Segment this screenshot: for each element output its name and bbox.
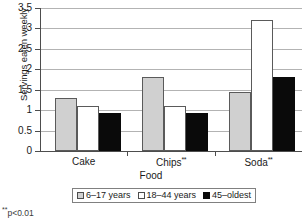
y-axis-tick xyxy=(35,69,40,70)
bar xyxy=(77,106,99,151)
bar xyxy=(99,113,121,151)
significance-marker: ** xyxy=(182,156,186,163)
legend-label: 6–17 years xyxy=(86,191,131,200)
y-axis-tick-label: 0 xyxy=(0,146,32,156)
y-axis-tick-label: 3.5 xyxy=(0,3,32,13)
y-axis-tick-label: 2.5 xyxy=(0,44,32,54)
legend-label: 18–44 years xyxy=(147,191,197,200)
legend-item: 6–17 years xyxy=(77,191,131,200)
bar xyxy=(229,92,251,151)
y-axis-tick xyxy=(35,131,40,132)
legend-label: 45–oldest xyxy=(212,191,251,200)
bar xyxy=(186,113,208,151)
chart-legend: 6–17 years18–44 years45–oldest xyxy=(72,188,256,203)
category-label: Chips** xyxy=(127,156,214,168)
bar xyxy=(251,20,273,151)
legend-swatch-icon xyxy=(77,192,84,199)
bar xyxy=(273,77,295,151)
legend-item: 18–44 years xyxy=(138,191,197,200)
y-axis-tick-label: 1.5 xyxy=(0,85,32,95)
bar-chart-figure: Servings eaten weekly 00.511.522.533.5 C… xyxy=(0,0,302,220)
y-axis-tick-label: 0.5 xyxy=(0,126,32,136)
significance-marker: ** xyxy=(268,156,272,163)
plot-area xyxy=(40,8,302,152)
category-label: Soda** xyxy=(215,156,302,168)
y-axis-tick xyxy=(35,28,40,29)
y-axis-tick-label: 1 xyxy=(0,105,32,115)
x-axis-title: Food xyxy=(0,170,302,181)
y-axis-tick xyxy=(35,8,40,9)
legend-item: 45–oldest xyxy=(203,191,251,200)
gridline xyxy=(41,8,302,9)
y-axis-tick-label: 2 xyxy=(0,64,32,74)
y-axis-tick xyxy=(35,49,40,50)
bar xyxy=(164,106,186,151)
y-axis-tick-label: 3 xyxy=(0,23,32,33)
category-label: Cake xyxy=(40,156,127,167)
significance-footnote: **p<0.01 xyxy=(2,206,34,218)
y-axis-tick xyxy=(35,110,40,111)
y-axis-tick xyxy=(35,90,40,91)
legend-swatch-icon xyxy=(203,192,210,199)
y-axis-tick xyxy=(35,151,40,152)
bar xyxy=(55,98,77,151)
footnote-text: p<0.01 xyxy=(7,208,33,218)
legend-swatch-icon xyxy=(138,192,145,199)
bar xyxy=(142,77,164,151)
x-axis-line xyxy=(40,151,302,152)
